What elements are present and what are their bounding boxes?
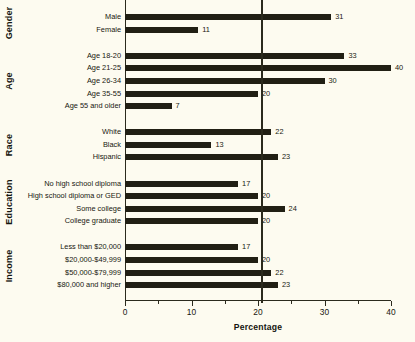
group-label-education: Education — [0, 181, 18, 225]
bar — [125, 53, 344, 59]
bar — [125, 181, 238, 187]
bar-value-label: 22 — [275, 128, 283, 136]
bar-value-label: 23 — [282, 281, 290, 289]
category-label: $20,000-$49,999 — [65, 256, 125, 264]
reference-line — [261, 0, 263, 303]
x-tick-minor — [358, 301, 359, 304]
x-tick-label: 10 — [187, 307, 196, 317]
x-tick-minor — [225, 301, 226, 304]
category-label: White — [102, 128, 125, 136]
bar-value-label: 20 — [262, 90, 270, 98]
x-tick-major — [391, 301, 392, 306]
category-label: $50,000-$79,999 — [65, 269, 125, 277]
category-label: College graduate — [65, 217, 125, 225]
bar — [125, 244, 238, 250]
bar-value-label: 11 — [202, 26, 210, 34]
category-label: Less than $20,000 — [60, 243, 125, 251]
category-label: $80,000 and higher — [57, 281, 125, 289]
bar — [125, 27, 198, 33]
bar — [125, 282, 278, 288]
x-tick-minor — [291, 301, 292, 304]
bar — [125, 129, 271, 135]
category-label: Some college — [76, 205, 125, 213]
bar-value-label: 33 — [348, 52, 356, 60]
category-label: High school diploma or GED — [28, 192, 125, 200]
x-tick-label: 20 — [253, 307, 262, 317]
group-label-text: Income — [4, 250, 14, 283]
bar — [125, 142, 211, 148]
category-label-column: MaleFemaleAge 18-20Age 21-25Age 26-34Age… — [18, 0, 125, 342]
bar — [125, 78, 325, 84]
x-tick-label: 0 — [123, 307, 128, 317]
bar-value-label: 7 — [176, 102, 180, 110]
group-label-income: Income — [0, 244, 18, 288]
bar-value-label: 22 — [275, 269, 283, 277]
group-label-race: Race — [0, 129, 18, 160]
bar-value-label: 23 — [282, 153, 290, 161]
x-tick-label: 40 — [386, 307, 395, 317]
x-tick-label: 30 — [320, 307, 329, 317]
bar — [125, 14, 331, 20]
group-label-text: Age — [4, 72, 14, 90]
group-label-gender: Gender — [0, 14, 18, 33]
bar — [125, 218, 258, 224]
bar — [125, 154, 278, 160]
bar-value-label: 20 — [262, 192, 270, 200]
bar-chart: GenderAgeRaceEducationIncome MaleFemaleA… — [0, 0, 415, 342]
category-label: Age 18-20 — [87, 52, 125, 60]
bar — [125, 65, 391, 71]
category-label: Male — [105, 13, 125, 21]
group-label-age: Age — [0, 53, 18, 109]
category-label: Black — [103, 141, 125, 149]
bar — [125, 270, 271, 276]
category-label: Hispanic — [93, 153, 125, 161]
category-label: Age 26-34 — [87, 77, 125, 85]
x-tick-major — [192, 301, 193, 306]
bar — [125, 193, 258, 199]
group-label-text: Gender — [4, 7, 14, 40]
bar-value-label: 40 — [395, 64, 403, 72]
bar — [125, 257, 258, 263]
bar — [125, 91, 258, 97]
x-tick-minor — [158, 301, 159, 304]
bar-value-label: 20 — [262, 256, 270, 264]
bar-value-label: 17 — [242, 180, 250, 188]
bar-value-label: 17 — [242, 243, 250, 251]
category-label: Female — [96, 26, 125, 34]
x-axis-title: Percentage — [234, 322, 282, 332]
bar-value-label: 31 — [335, 13, 343, 21]
bar-value-label: 13 — [215, 141, 223, 149]
x-tick-major — [125, 301, 126, 306]
bar-value-label: 30 — [329, 77, 337, 85]
category-label: Age 55 and older — [65, 102, 125, 110]
category-label: Age 21-25 — [87, 64, 125, 72]
bar-value-label: 24 — [289, 205, 297, 213]
x-tick-major — [325, 301, 326, 306]
bar — [125, 103, 172, 109]
bar-value-label: 20 — [262, 217, 270, 225]
category-label: No high school diploma — [44, 180, 125, 188]
group-label-text: Education — [4, 180, 14, 225]
group-label-text: Race — [4, 134, 14, 156]
plot-area: 31113340302072213231720242017202223 — [125, 0, 415, 342]
x-tick-major — [258, 301, 259, 306]
category-label: Age 35-55 — [87, 90, 125, 98]
